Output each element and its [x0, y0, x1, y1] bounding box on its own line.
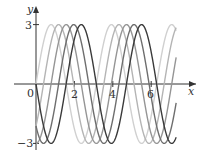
x-tick-4: 4	[109, 89, 116, 100]
y-axis-arrow-icon	[33, 6, 39, 13]
x-tick-2: 2	[71, 89, 78, 100]
y-tick-3: 3	[25, 20, 32, 31]
x-tick-0: 0	[27, 88, 34, 99]
x-tick-6: 6	[147, 89, 154, 100]
x-axis-label: x	[188, 86, 194, 97]
y-tick-neg3: −3	[17, 138, 33, 149]
y-axis-label: y	[27, 4, 33, 15]
